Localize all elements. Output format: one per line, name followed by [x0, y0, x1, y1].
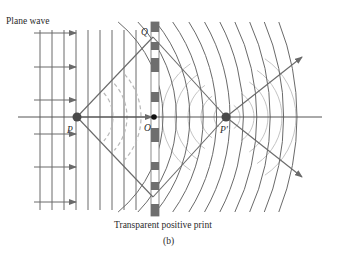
point-o — [151, 114, 157, 120]
print-dark-band — [151, 162, 159, 170]
plane-wave-label: Plane wave — [6, 16, 50, 26]
figure-caption: (b) — [163, 236, 174, 247]
print-dark-band — [151, 92, 159, 102]
point-label-q: Q — [141, 27, 148, 37]
point-p-prime — [222, 113, 231, 122]
point-p — [73, 113, 82, 122]
print-dark-band — [151, 22, 159, 32]
print-dark-band — [151, 204, 159, 216]
hologram-reconstruction-diagram: Plane wave Transparent positive print (b… — [0, 0, 341, 256]
plane-wavefronts — [40, 30, 136, 210]
point-label-p: P — [66, 125, 73, 135]
point-label-p-prime: P′ — [219, 125, 229, 135]
print-dark-band — [151, 58, 159, 72]
print-dark-band — [151, 42, 159, 50]
print-dark-band — [151, 182, 159, 190]
point-label-o: O — [144, 123, 151, 133]
print-label: Transparent positive print — [114, 220, 212, 230]
print-dark-band — [151, 128, 159, 142]
